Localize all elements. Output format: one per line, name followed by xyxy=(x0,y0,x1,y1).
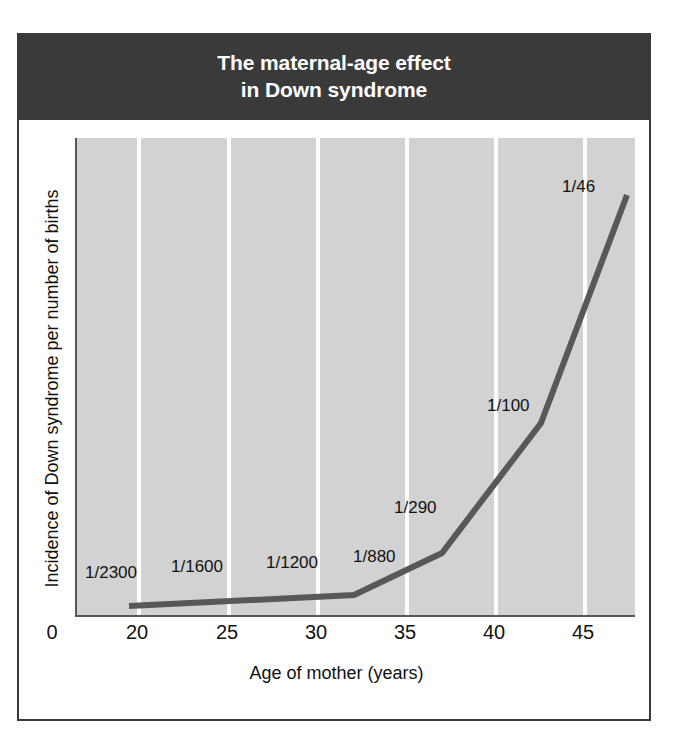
xtick-25: 25 xyxy=(216,621,238,644)
xtick-40: 40 xyxy=(483,621,505,644)
data-label-4: 1/880 xyxy=(353,547,396,567)
chart-figure: The maternal-age effect in Down syndrome… xyxy=(0,0,673,743)
data-label-1: 1/2300 xyxy=(85,563,137,583)
page-title: The maternal-age effect in Down syndrome xyxy=(217,50,450,104)
data-label-2: 1/1600 xyxy=(171,557,223,577)
xtick-20: 20 xyxy=(126,621,148,644)
y-axis-title: Incidence of Down syndrome per number of… xyxy=(42,149,63,629)
xtick-45: 45 xyxy=(572,621,594,644)
data-label-7: 1/46 xyxy=(562,177,595,197)
x-axis-title: Age of mother (years) xyxy=(0,663,673,684)
plot-area xyxy=(75,138,635,617)
data-label-3: 1/1200 xyxy=(266,553,318,573)
data-line-series xyxy=(77,138,635,617)
xtick-35: 35 xyxy=(394,621,416,644)
chart-title-banner: The maternal-age effect in Down syndrome xyxy=(17,33,651,120)
data-label-6: 1/100 xyxy=(487,396,530,416)
xtick-30: 30 xyxy=(305,621,327,644)
data-label-5: 1/290 xyxy=(394,498,437,518)
